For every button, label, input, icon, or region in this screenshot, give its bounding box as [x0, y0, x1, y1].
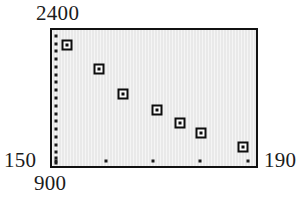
y-axis-tick-dot [55, 42, 58, 45]
y-axis-tick-dot [55, 120, 58, 123]
y-axis-tick-dot [55, 81, 58, 84]
data-point-marker [174, 118, 185, 129]
data-point-marker [94, 63, 105, 74]
y-axis-tick-dot [55, 104, 58, 107]
x-axis-max-label: 190 [264, 150, 296, 171]
y-axis-tick-dot [55, 34, 58, 37]
y-axis-tick-dot [55, 112, 58, 115]
scatter-plot-figure: 2400 150 900 190 [0, 0, 302, 198]
y-axis-tick-dot [55, 135, 58, 138]
y-axis-tick-dot [55, 89, 58, 92]
data-point-marker [117, 89, 128, 100]
x-axis-tick-dot [54, 160, 57, 163]
x-axis-tick-dot [104, 160, 107, 163]
x-axis-min-label: 900 [34, 173, 66, 194]
data-point-marker [151, 104, 162, 115]
x-axis-tick-dot [199, 160, 202, 163]
data-point-marker [61, 39, 72, 50]
x-axis-tick-dot [247, 160, 250, 163]
y-axis-tick-dot [55, 50, 58, 53]
y-axis-tick-dot [55, 151, 58, 154]
plot-inner-canvas [52, 30, 256, 166]
data-point-marker [238, 141, 249, 152]
y-axis-tick-dot [55, 143, 58, 146]
y-axis-tick-dot [55, 128, 58, 131]
y-axis-tick-dot [55, 58, 58, 61]
plot-area [50, 28, 258, 168]
y-axis-tick-dot [55, 73, 58, 76]
y-axis-min-label: 150 [4, 150, 36, 171]
x-axis-tick-dot [151, 160, 154, 163]
y-axis-tick-dot [55, 97, 58, 100]
data-point-marker [196, 127, 207, 138]
y-axis-tick-dot [55, 65, 58, 68]
y-axis-max-label: 2400 [36, 3, 79, 24]
